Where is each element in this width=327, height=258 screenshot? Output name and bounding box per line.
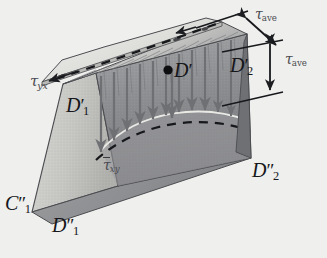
label-D2-prime: D′2 bbox=[230, 55, 253, 78]
label-C1-double-prime: C″1 bbox=[5, 193, 31, 216]
label-tau-ave-right: τave bbox=[285, 52, 307, 68]
label-D1-prime: D′1 bbox=[66, 95, 89, 118]
label-tau-xy-bar: τxy bbox=[103, 158, 120, 174]
label-D1-double-prime: D″1 bbox=[52, 215, 79, 238]
label-tau-ave-top: τave bbox=[255, 7, 277, 23]
shear-stress-diagram bbox=[0, 0, 327, 258]
label-tau-yx: τyx bbox=[30, 74, 48, 90]
point-D-prime-dot bbox=[163, 65, 172, 74]
label-D-prime: D′ bbox=[174, 60, 192, 80]
label-D2-double-prime: D″2 bbox=[252, 160, 279, 183]
